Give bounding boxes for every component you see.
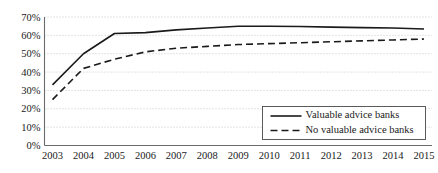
- x-tick-label: 2013: [352, 150, 373, 161]
- chart-background: [0, 0, 438, 173]
- y-tick-label: 20%: [21, 103, 41, 114]
- y-tick-label: 50%: [21, 48, 41, 59]
- y-tick-label: 30%: [21, 85, 41, 96]
- x-tick-label: 2009: [228, 150, 249, 161]
- y-tick-label: 70%: [21, 12, 41, 23]
- x-tick-label: 2008: [197, 150, 218, 161]
- x-tick-label: 2011: [290, 150, 311, 161]
- legend-label: Valuable advice banks: [306, 109, 400, 120]
- y-tick-label: 40%: [21, 67, 41, 78]
- y-tick-label: 10%: [21, 122, 41, 133]
- chart-legend: Valuable advice banksNo valuable advice …: [263, 107, 426, 140]
- chart-canvas: 0%10%20%30%40%50%60%70% 2003200420052006…: [0, 0, 438, 173]
- x-tick-label: 2014: [383, 150, 405, 161]
- y-tick-label: 0%: [27, 140, 41, 151]
- x-tick-label: 2004: [73, 150, 95, 161]
- x-tick-label: 2012: [321, 150, 342, 161]
- x-tick-label: 2007: [166, 150, 187, 161]
- x-tick-label: 2006: [135, 150, 156, 161]
- x-tick-label: 2005: [104, 150, 125, 161]
- line-chart: 0%10%20%30%40%50%60%70% 2003200420052006…: [0, 0, 438, 173]
- x-tick-label: 2010: [259, 150, 280, 161]
- x-tick-label: 2003: [42, 150, 63, 161]
- y-tick-label: 60%: [21, 30, 41, 41]
- x-tick-label: 2015: [414, 150, 435, 161]
- legend-label: No valuable advice banks: [306, 124, 414, 135]
